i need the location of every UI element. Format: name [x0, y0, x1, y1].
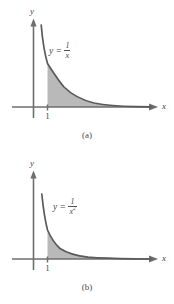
equation-exponent-b: 2	[73, 205, 76, 211]
equation-denominator-b: x2	[68, 208, 76, 216]
x-tick-label-1-a: 1	[42, 112, 53, 121]
equation-lhs-a: y =	[49, 47, 62, 57]
x-axis-label-b: x	[162, 254, 166, 263]
equation-label-a: y = 1 x	[49, 42, 70, 61]
y-axis-arrowhead-b	[30, 171, 36, 179]
y-axis-label-b: y	[30, 159, 34, 168]
x-tick-label-1-b: 1	[42, 264, 53, 273]
y-axis-arrowhead-a	[30, 19, 36, 27]
equation-denominator-a: x	[64, 52, 70, 60]
x-axis-label-a: x	[162, 102, 166, 111]
panel-caption-a: (a)	[0, 131, 174, 140]
shaded-region-b	[48, 230, 153, 259]
equation-lhs-b: y =	[53, 203, 66, 213]
figure-panel-a: y x y = 1 x 1 (a)	[0, 0, 174, 152]
panel-caption-b: (b)	[0, 283, 174, 292]
equation-fraction-a: 1 x	[64, 42, 70, 61]
equation-fraction-b: 1 x2	[68, 198, 76, 217]
equation-numerator-a: 1	[64, 42, 70, 50]
y-axis-label-a: y	[30, 7, 34, 16]
figure-panel-b: y x y = 1 x2 1 (b)	[0, 152, 174, 304]
equation-label-b: y = 1 x2	[53, 198, 77, 217]
